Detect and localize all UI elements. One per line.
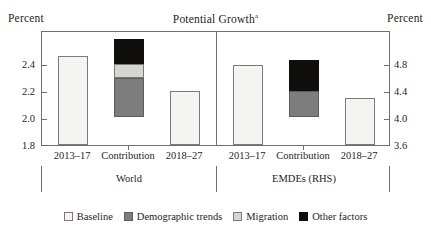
figure-header: Percent Potential Growtha Percent [0, 12, 431, 28]
left-tick-mark-2-4 [42, 65, 47, 66]
right-tick-label-4-8: 4.8 [394, 59, 424, 70]
bar-emdes-2013-17-baseline [233, 65, 263, 145]
segment-emdes-other-factors [289, 60, 319, 91]
legend-label-migration: Migration [246, 211, 288, 222]
chart-title-footnote-marker: a [255, 12, 258, 20]
legend-swatch-baseline [64, 212, 73, 221]
category-labels: 2013–17 Contribution 2018–27 2013–17 Con… [41, 150, 390, 166]
panel-separator [216, 32, 217, 145]
right-axis-unit-label: Percent [387, 12, 423, 24]
potential-growth-figure: Percent Potential Growtha Percent 2.4 2.… [0, 0, 431, 242]
legend-label-baseline: Baseline [77, 211, 113, 222]
bar-emdes-2018-27-baseline [345, 98, 375, 145]
right-tick-label-3-6: 3.6 [394, 140, 424, 151]
plot-area [41, 31, 390, 146]
bar-world-2018-27-baseline [170, 91, 200, 145]
right-tick-label-4-0: 4.0 [394, 113, 424, 124]
chart-legend: Baseline Demographic trends Migration Ot… [0, 206, 431, 226]
x-label-world-contribution: Contribution [97, 150, 159, 161]
legend-swatch-other-factors [299, 212, 308, 221]
legend-item-migration: Migration [233, 211, 288, 222]
segment-world-demographic-trends [114, 78, 144, 117]
left-tick-label-1-8: 1.8 [9, 140, 35, 151]
x-label-world-2013-17: 2013–17 [41, 150, 103, 161]
bar-world-contribution [114, 30, 144, 145]
bar-emdes-contribution [289, 30, 319, 145]
right-tick-mark-4-8 [384, 65, 389, 66]
legend-swatch-migration [233, 212, 242, 221]
left-tick-mark-2-0 [42, 119, 47, 120]
segment-emdes-demographic-trends [289, 91, 319, 117]
group-label-world: World [42, 173, 216, 184]
chart-title: Potential Growtha [0, 12, 431, 25]
right-tick-mark-4-0 [384, 119, 389, 120]
legend-item-demographic-trends: Demographic trends [124, 211, 222, 222]
segment-world-migration [114, 64, 144, 78]
x-label-emdes-2013-17: 2013–17 [216, 150, 278, 161]
legend-label-other-factors: Other factors [312, 211, 367, 222]
group-label-band: World EMDEs (RHS) [41, 166, 390, 192]
left-tick-mark-2-2 [42, 92, 47, 93]
right-tick-mark-4-4 [384, 92, 389, 93]
legend-label-demographic-trends: Demographic trends [137, 211, 222, 222]
right-tick-label-4-4: 4.4 [394, 86, 424, 97]
left-tick-label-2-4: 2.4 [9, 59, 35, 70]
x-label-world-2018-27: 2018–27 [153, 150, 215, 161]
bar-world-2013-17-baseline [58, 56, 88, 145]
segment-world-other-factors [114, 39, 144, 64]
chart-title-text: Potential Growth [173, 13, 255, 25]
legend-item-baseline: Baseline [64, 211, 113, 222]
left-tick-label-2-2: 2.2 [9, 86, 35, 97]
legend-swatch-demographic-trends [124, 212, 133, 221]
legend-item-other-factors: Other factors [299, 211, 367, 222]
x-label-emdes-contribution: Contribution [272, 150, 334, 161]
group-label-emdes: EMDEs (RHS) [217, 173, 391, 184]
x-label-emdes-2018-27: 2018–27 [328, 150, 390, 161]
left-tick-label-2-0: 2.0 [9, 113, 35, 124]
